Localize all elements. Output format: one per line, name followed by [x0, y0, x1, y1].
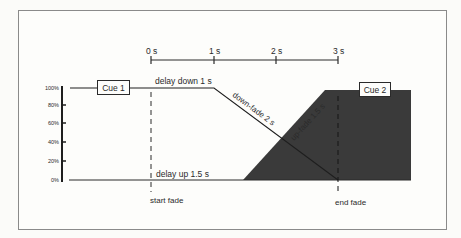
level-tick-20: 20%: [48, 158, 59, 164]
start-fade-label: start fade: [150, 196, 184, 205]
level-tick-100: 100%: [45, 85, 59, 91]
cue1-label: Cue 1: [98, 81, 130, 95]
delay-down-label: delay down 1 s: [155, 76, 212, 86]
svg-text:Cue 2: Cue 2: [364, 85, 387, 95]
time-tick-3: 3 s: [333, 46, 344, 56]
svg-text:Cue 1: Cue 1: [102, 83, 125, 93]
time-tick-1: 1 s: [209, 46, 220, 56]
time-tick-2: 2 s: [271, 46, 282, 56]
delay-up-label: delay up 1.5 s: [156, 169, 209, 179]
end-fade-label: end fade: [335, 198, 367, 207]
level-tick-40: 40%: [48, 139, 59, 145]
crossfade-diagram: 0 s 1 s 2 s 3 s 100% 80% 60% 40% 20% 0% …: [0, 0, 461, 238]
level-tick-60: 60%: [48, 120, 59, 126]
cue2-label: Cue 2: [360, 83, 391, 97]
time-tick-0: 0 s: [146, 46, 157, 56]
level-tick-0: 0%: [51, 177, 59, 183]
level-tick-80: 80%: [48, 102, 59, 108]
